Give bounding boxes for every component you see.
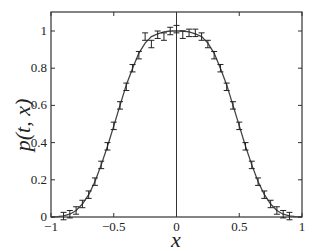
y-tick-label: 0.8 [31,60,47,75]
x-tick-label: −0.5 [102,219,126,234]
x-axis-label: x [170,227,181,251]
y-tick-label: 0 [41,209,48,224]
chart: −1−0.500.5100.20.40.60.81 x p(t, x) [0,0,312,251]
y-axis-label: p(t, x) [10,99,35,154]
axis-ticks: −1−0.500.5100.20.40.60.81 [31,12,306,234]
x-tick-label: 1 [299,219,306,234]
plot-area [51,12,302,220]
x-tick-label: 0.5 [231,219,247,234]
y-tick-label: 1 [41,23,48,38]
y-tick-label: 0.2 [31,172,47,187]
